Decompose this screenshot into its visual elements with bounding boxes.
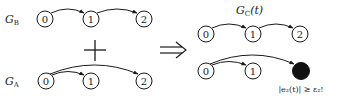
error-threshold-annotation: |e₂(t)| ≥ ε₂! bbox=[278, 85, 323, 94]
graph-b-label: GB bbox=[5, 13, 19, 27]
svg-text:2: 2 bbox=[141, 14, 147, 25]
graph-a-label: GA bbox=[5, 75, 20, 89]
graph-c-bottom-edge-0-1 bbox=[212, 62, 246, 66]
graph-c-top-node-1: 1 bbox=[245, 26, 261, 42]
svg-text:1: 1 bbox=[250, 29, 256, 40]
graph-c-bottom-node-1: 1 bbox=[245, 63, 261, 79]
graph-a-edge-0-2 bbox=[50, 65, 138, 74]
graph-c-top-edge-1-2 bbox=[259, 24, 293, 28]
graph-c-label: GC(t) bbox=[236, 4, 263, 18]
svg-text:2: 2 bbox=[297, 29, 303, 40]
graph-a-node-1: 1 bbox=[83, 73, 99, 89]
graph-c-top-node-0: 0 bbox=[198, 26, 214, 42]
svg-text:0: 0 bbox=[42, 14, 48, 25]
implies-operator bbox=[160, 42, 186, 58]
svg-text:0: 0 bbox=[203, 66, 209, 77]
graph-b-node-0: 0 bbox=[37, 11, 53, 27]
svg-text:1: 1 bbox=[88, 76, 94, 87]
svg-text:1: 1 bbox=[250, 66, 256, 77]
graph-a: GA 0 1 2 bbox=[5, 65, 152, 89]
graph-b-edge-1-2 bbox=[97, 9, 137, 13]
graph-b: GB 0 1 2 bbox=[5, 9, 152, 27]
graph-a-edge-0-1 bbox=[52, 72, 84, 76]
graph-c-bottom-node-0: 0 bbox=[198, 63, 214, 79]
plus-operator bbox=[84, 40, 106, 61]
svg-text:0: 0 bbox=[43, 76, 49, 87]
graph-a-node-2: 2 bbox=[136, 73, 152, 89]
graph-c: GC(t) 0 1 2 0 1 |e₂(t)| ≥ ε bbox=[198, 4, 324, 94]
svg-text:0: 0 bbox=[203, 29, 209, 40]
svg-text:2: 2 bbox=[141, 76, 147, 87]
graph-b-node-1: 1 bbox=[83, 11, 99, 27]
graph-c-top-node-2: 2 bbox=[292, 26, 308, 42]
graph-b-edge-0-1 bbox=[51, 9, 84, 13]
graph-c-top-edge-0-1 bbox=[212, 24, 246, 28]
graph-b-node-2: 2 bbox=[136, 11, 152, 27]
graph-a-node-0: 0 bbox=[38, 73, 54, 89]
svg-text:1: 1 bbox=[88, 14, 94, 25]
diagram-canvas: GB 0 1 2 GA 0 1 bbox=[0, 0, 341, 98]
graph-c-bottom-node-2-highlighted bbox=[293, 63, 310, 80]
